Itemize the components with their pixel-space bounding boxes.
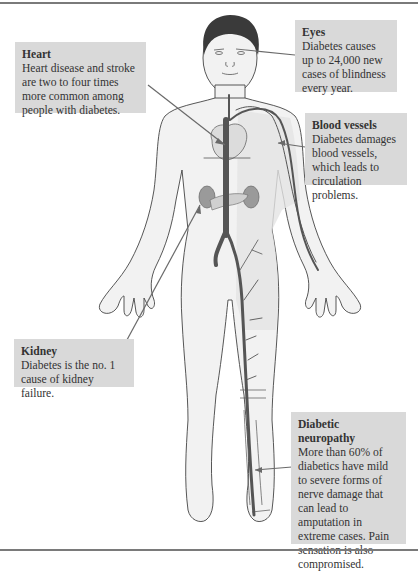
bottom-border [0, 549, 418, 551]
callout-heart-title: Heart [22, 48, 139, 62]
callout-kidney: Kidney Diabetes is the no. 1 cause of ki… [14, 339, 134, 387]
callout-neuropathy-text: More than 60% of diabetics have mild to … [298, 446, 399, 572]
callout-eyes: Eyes Diabetes causes up to 24,000 new ca… [295, 20, 397, 92]
callout-blood-vessels-title: Blood vessels [312, 119, 400, 133]
callout-kidney-text: Diabetes is the no. 1 cause of kidney fa… [21, 359, 127, 401]
callout-blood-vessels-text: Diabetes damages blood vessels, which le… [312, 133, 400, 203]
callout-eyes-text: Diabetes causes up to 24,000 new cases o… [302, 40, 390, 96]
callout-eyes-title: Eyes [302, 26, 390, 40]
callout-neuropathy-title: Diabetic neuropathy [298, 418, 399, 446]
callout-heart-text: Heart disease and stroke are two to four… [22, 62, 139, 118]
callout-heart: Heart Heart disease and stroke are two t… [15, 42, 146, 113]
callout-blood-vessels: Blood vessels Diabetes damages blood ves… [305, 113, 407, 185]
callout-diabetic-neuropathy: Diabetic neuropathy More than 60% of dia… [291, 412, 406, 544]
callout-kidney-title: Kidney [21, 345, 127, 359]
